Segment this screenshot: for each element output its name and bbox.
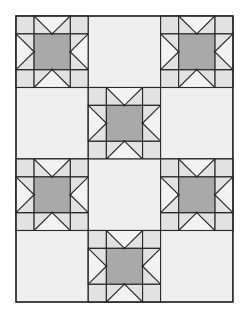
corner-square [215, 159, 233, 177]
corner-square [215, 70, 233, 88]
star-tip-dot [178, 194, 180, 196]
star-tip-dot [141, 265, 143, 267]
plain-block [88, 16, 160, 88]
corner-square [88, 284, 106, 302]
star-tip-dot [178, 51, 180, 53]
star-tip-dot [69, 51, 71, 53]
corner-square [215, 213, 233, 231]
star-tip-dot [69, 194, 71, 196]
plain-block-fill [88, 159, 160, 231]
quilt-blocks [16, 16, 233, 302]
star-block [161, 16, 233, 88]
star-tip-dot [51, 212, 53, 214]
star-tip-dot [141, 122, 143, 124]
star-tip-dot [51, 33, 53, 35]
star-block [88, 88, 160, 160]
star-tip-dot [214, 51, 216, 53]
star-block [16, 159, 88, 231]
center-square [34, 34, 70, 70]
plain-block [88, 159, 160, 231]
corner-square [16, 70, 34, 88]
star-tip-dot [196, 33, 198, 35]
corner-square [161, 159, 179, 177]
plain-block [16, 88, 88, 160]
corner-square [161, 213, 179, 231]
corner-square [70, 16, 88, 34]
corner-square [143, 231, 161, 249]
star-tip-dot [196, 176, 198, 178]
star-tip-dot [51, 69, 53, 71]
corner-square [16, 159, 34, 177]
corner-square [88, 141, 106, 159]
star-tip-dot [33, 194, 35, 196]
corner-square [161, 70, 179, 88]
star-tip-dot [105, 265, 107, 267]
star-tip-dot [214, 194, 216, 196]
star-tip-dot [123, 283, 125, 285]
star-tip-dot [105, 122, 107, 124]
corner-square [88, 231, 106, 249]
plain-block-fill [16, 231, 88, 303]
plain-block [161, 88, 233, 160]
corner-square [70, 159, 88, 177]
plain-block [16, 231, 88, 303]
center-square [34, 177, 70, 213]
star-block [88, 231, 160, 303]
star-tip-dot [51, 176, 53, 178]
corner-square [70, 213, 88, 231]
center-square [106, 105, 142, 141]
corner-square [143, 284, 161, 302]
corner-square [16, 16, 34, 34]
corner-square [16, 213, 34, 231]
corner-square [88, 88, 106, 106]
star-tip-dot [123, 104, 125, 106]
plain-block-fill [88, 16, 160, 88]
star-tip-dot [123, 247, 125, 249]
center-square [179, 34, 215, 70]
star-tip-dot [196, 212, 198, 214]
corner-square [143, 141, 161, 159]
star-block [16, 16, 88, 88]
star-tip-dot [33, 51, 35, 53]
corner-square [215, 16, 233, 34]
quilt-diagram [0, 0, 246, 326]
plain-block-fill [16, 88, 88, 160]
corner-square [70, 70, 88, 88]
center-square [106, 248, 142, 284]
star-block [161, 159, 233, 231]
plain-block-fill [161, 88, 233, 160]
plain-block-fill [161, 231, 233, 303]
center-square [179, 177, 215, 213]
corner-square [143, 88, 161, 106]
corner-square [161, 16, 179, 34]
star-tip-dot [196, 69, 198, 71]
plain-block [161, 231, 233, 303]
star-tip-dot [123, 140, 125, 142]
